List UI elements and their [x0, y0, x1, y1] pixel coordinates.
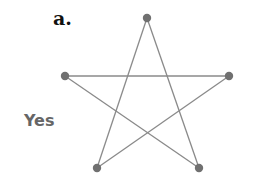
graph-node-bottom-left — [93, 164, 101, 172]
graph-node-left — [61, 72, 69, 80]
graph-edge-left-bottom-right — [65, 76, 199, 168]
graph-node-bottom-right — [195, 164, 203, 172]
graph-edge-right-bottom-left — [97, 76, 229, 168]
graph-edge-top-bottom-left — [97, 18, 147, 168]
star-graph — [0, 0, 269, 174]
graph-node-right — [225, 72, 233, 80]
graph-edges — [65, 18, 229, 168]
graph-nodes — [61, 14, 233, 172]
graph-node-top — [143, 14, 151, 22]
graph-edge-top-bottom-right — [147, 18, 199, 168]
